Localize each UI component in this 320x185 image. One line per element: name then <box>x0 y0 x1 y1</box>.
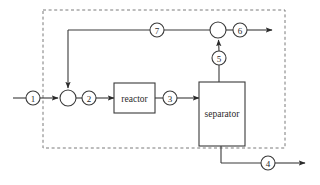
stream-4-label: 4 <box>266 159 271 169</box>
stream-6-label: 6 <box>238 26 243 36</box>
stream-1-label: 1 <box>31 94 36 104</box>
process-flow-diagram: reactor separator 1 2 3 4 5 6 7 <box>0 0 320 185</box>
mixer-junction[interactable] <box>60 90 76 106</box>
stream-5-label: 5 <box>217 54 222 64</box>
splitter-junction[interactable] <box>210 22 226 38</box>
unit-separator-label: separator <box>205 109 241 119</box>
flowsheet-canvas: reactor separator 1 2 3 4 5 6 7 <box>0 0 320 185</box>
stream-2-label: 2 <box>87 94 92 104</box>
unit-reactor-label: reactor <box>121 94 148 104</box>
stream-7-label: 7 <box>155 26 160 36</box>
stream5-to-splitter-line <box>219 40 220 51</box>
stream-3-label: 3 <box>168 94 173 104</box>
